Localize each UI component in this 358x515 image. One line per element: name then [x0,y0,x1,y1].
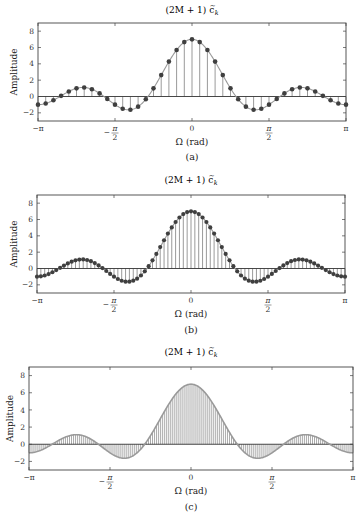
svg-text:−: − [103,300,109,309]
svg-text:−: − [104,128,110,137]
stem-plot-b: (2M + 1) c~k−202468−π−π20π2πΩ (rad)Ampli… [0,170,358,340]
svg-text:4: 4 [29,59,34,68]
svg-text:π: π [111,296,118,305]
panel-caption: (a) [185,151,198,162]
x-axis-label: Ω (rad) [176,137,209,147]
svg-text:0: 0 [189,473,194,482]
svg-text:−π: −π [23,473,34,482]
stem-plot-a: (2M + 1) c~k−202468−π−π20π2πΩ (rad)Ampli… [0,0,358,170]
x-axis-ticks: −π−π20π2π [31,195,347,314]
svg-text:0: 0 [28,264,33,273]
panel-b: (2M + 1) c~k−202468−π−π20π2πΩ (rad)Ampli… [0,170,358,340]
y-axis-label: Amplitude [9,220,19,268]
y-axis-label: Amplitude [5,395,15,443]
svg-text:8: 8 [28,199,33,208]
y-axis-label: Amplitude [9,48,19,96]
x-axis-label: Ω (rad) [175,486,208,496]
svg-text:π: π [265,296,272,305]
svg-text:8: 8 [20,371,25,380]
svg-text:−π: −π [32,124,43,133]
svg-text:−2: −2 [14,457,25,466]
svg-text:6: 6 [28,215,33,224]
svg-text:2: 2 [270,482,275,491]
stems [29,384,353,458]
svg-text:π: π [112,124,119,133]
svg-text:2: 2 [267,133,272,142]
panel-a: (2M + 1) c~k−202468−π−π20π2πΩ (rad)Ampli… [0,0,358,170]
svg-text:2: 2 [112,305,117,314]
y-axis-ticks: −202468 [14,371,353,466]
svg-text:2: 2 [266,305,271,314]
svg-text:2: 2 [28,248,33,257]
stem-plot-c: (2M + 1) c~k−202468−π−π20π2πΩ (rad)Ampli… [0,340,358,515]
svg-text:4: 4 [20,406,25,415]
svg-text:6: 6 [29,43,34,52]
panel-caption: (b) [184,324,198,335]
svg-text:2: 2 [108,482,113,491]
x-axis-ticks: −π−π20π2π [23,367,355,491]
chart-title: (2M + 1) c~k [165,2,218,17]
svg-text:2: 2 [113,133,118,142]
svg-text:6: 6 [20,388,25,397]
chart-title: (2M + 1) c~k [164,344,217,359]
svg-text:8: 8 [29,27,34,36]
x-axis-label: Ω (rad) [175,309,208,319]
svg-text:π: π [266,124,273,133]
stems [38,39,346,109]
svg-text:π: π [343,296,348,305]
svg-text:−2: −2 [22,280,33,289]
chart-title: (2M + 1) c~k [164,172,217,187]
svg-text:0: 0 [29,92,34,101]
svg-text:0: 0 [20,440,25,449]
svg-text:4: 4 [28,231,33,240]
svg-text:−2: −2 [23,108,34,117]
svg-text:π: π [351,473,356,482]
svg-text:π: π [344,124,349,133]
svg-text:0: 0 [189,296,194,305]
svg-text:π: π [107,473,114,482]
stems [37,211,345,281]
svg-text:−: − [99,477,105,486]
svg-text:−π: −π [31,296,42,305]
panel-c: (2M + 1) c~k−202468−π−π20π2πΩ (rad)Ampli… [0,340,358,515]
svg-text:0: 0 [190,124,195,133]
svg-text:2: 2 [29,76,34,85]
svg-text:π: π [269,473,276,482]
svg-text:2: 2 [20,423,25,432]
panel-caption: (c) [185,501,198,512]
